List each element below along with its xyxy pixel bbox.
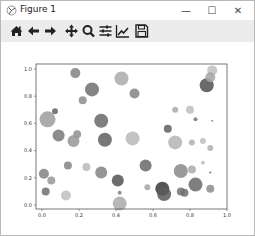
scatter-point (186, 106, 194, 114)
scatter-point (79, 96, 87, 104)
scatter-point (47, 177, 55, 185)
y-tick-label: 0.2 (24, 175, 32, 181)
scatter-point (112, 175, 124, 187)
y-tick-label: 1.0 (24, 66, 32, 72)
matplotlib-logo-icon (6, 5, 17, 16)
y-tick-label: 0.0 (24, 202, 32, 208)
x-tick-label: 0.0 (38, 212, 46, 218)
x-tick-label: 0.6 (149, 212, 157, 218)
scatter-point (188, 166, 196, 174)
scatter-point (61, 191, 71, 201)
figure-canvas[interactable]: 0.00.20.40.60.81.00.00.20.40.60.81.0 (1, 42, 254, 235)
scatter-point (130, 89, 140, 99)
x-tick-label: 0.2 (75, 212, 83, 218)
window-title: Figure 1 (20, 4, 56, 14)
scatter-point (194, 117, 198, 121)
scatter-point (113, 197, 127, 211)
scatter-point (157, 187, 171, 201)
close-button[interactable]: ✕ (225, 3, 251, 18)
arrow-right-icon (43, 23, 58, 39)
scatter-point (52, 108, 58, 114)
minimize-button[interactable]: — (173, 3, 199, 18)
y-tick-label: 0.6 (24, 120, 32, 126)
configure-subplots-button[interactable] (98, 23, 113, 39)
scatter-point (211, 120, 213, 122)
scatter-points (39, 65, 217, 210)
scatter-point (70, 68, 80, 78)
save-button[interactable] (134, 23, 149, 39)
scatter-point (95, 166, 107, 178)
scatter-point (94, 114, 108, 128)
scatter-point (164, 125, 172, 133)
scatter-point (206, 185, 214, 193)
scatter-point (172, 107, 178, 113)
scatter-point (144, 184, 150, 190)
x-tick-label: 0.8 (186, 212, 194, 218)
scatter-point (140, 160, 152, 172)
scatter-point (189, 178, 203, 192)
scatter-point (68, 135, 80, 147)
scatter-point (115, 72, 129, 86)
back-button[interactable] (26, 23, 41, 39)
scatter-point (209, 171, 211, 173)
x-tick-label: 1.0 (223, 212, 231, 218)
move-icon (64, 23, 79, 39)
magnifier-icon (81, 23, 96, 39)
scatter-point (207, 145, 213, 151)
scatter-point (189, 139, 195, 145)
scatter-point (174, 164, 188, 178)
floppy-disk-icon (134, 23, 149, 39)
scatter-point (200, 138, 206, 144)
scatter-point (82, 163, 90, 171)
figure-window: Figure 1 — ☐ ✕ (0, 0, 255, 236)
scatter-point (98, 133, 112, 147)
maximize-button[interactable]: ☐ (199, 3, 225, 18)
forward-button[interactable] (43, 23, 58, 39)
scatter-point (201, 161, 205, 165)
x-tick-label: 0.4 (112, 212, 120, 218)
scatter-point (181, 189, 189, 197)
zoom-button[interactable] (81, 23, 96, 39)
home-icon (9, 23, 24, 39)
y-tick-label: 0.4 (24, 147, 32, 153)
sliders-icon (98, 23, 113, 39)
line-chart-icon (115, 23, 130, 39)
scatter-point (42, 187, 50, 195)
pan-button[interactable] (64, 23, 79, 39)
scatter-point (64, 162, 72, 170)
scatter-point (205, 72, 215, 82)
scatter-point (53, 130, 65, 142)
scatter-plot[interactable]: 0.00.20.40.60.81.00.00.20.40.60.81.0 (1, 42, 254, 235)
edit-axis-button[interactable] (115, 23, 130, 39)
y-tick-label: 0.8 (24, 93, 32, 99)
scatter-point (39, 169, 49, 179)
title-bar[interactable]: Figure 1 — ☐ ✕ (1, 1, 254, 20)
scatter-point (118, 191, 122, 195)
home-button[interactable] (9, 23, 24, 39)
scatter-point (126, 131, 140, 145)
scatter-point (85, 82, 99, 96)
scatter-point (40, 111, 56, 127)
arrow-left-icon (26, 23, 41, 39)
navigation-toolbar (1, 20, 254, 42)
scatter-point (168, 135, 182, 149)
